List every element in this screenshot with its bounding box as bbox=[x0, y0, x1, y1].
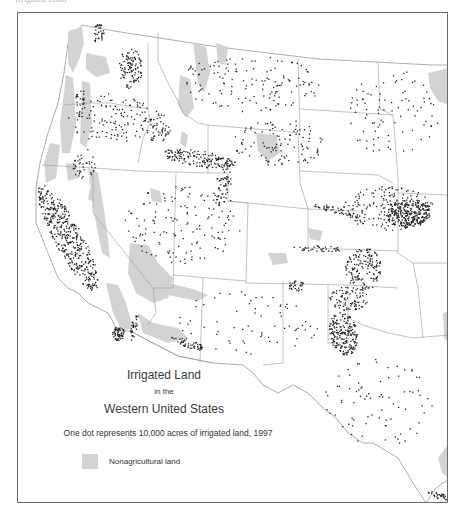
map-title-connector: in the bbox=[64, 387, 264, 396]
map-caption: One dot represents 10,000 acres of irrig… bbox=[18, 428, 318, 438]
map-subtitle: Western United States bbox=[64, 402, 264, 416]
map-title: Irrigated Land bbox=[64, 368, 264, 382]
map-legend: Nonagricultural land bbox=[82, 454, 180, 469]
clipped-header-text: Irrigated Land bbox=[15, 0, 67, 4]
legend-label-nonagricultural: Nonagricultural land bbox=[109, 457, 180, 466]
nonagricultural-swatch bbox=[82, 454, 98, 469]
